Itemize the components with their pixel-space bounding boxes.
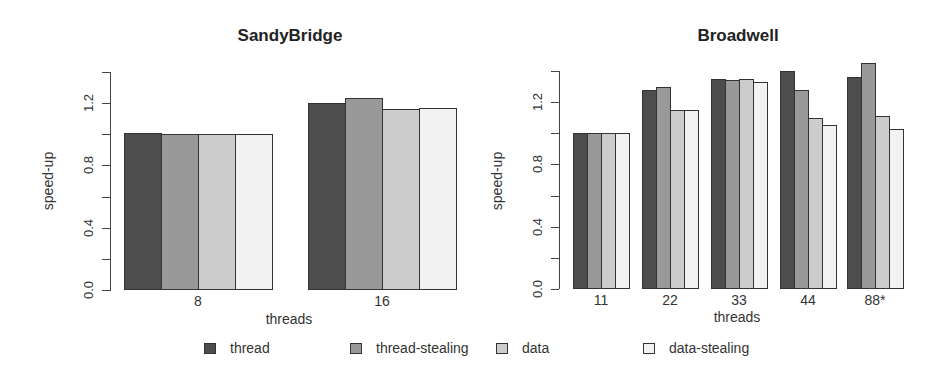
- bar-thread-stealing-11: [587, 133, 602, 289]
- y-tick: [551, 164, 559, 165]
- y-tick: [551, 196, 559, 197]
- bar-thread-22: [642, 90, 657, 289]
- chart-title: Broadwell: [697, 26, 778, 46]
- legend-label: thread: [230, 340, 270, 356]
- bar-data-11: [601, 133, 616, 289]
- bar-data-33: [739, 79, 754, 289]
- y-tick: [551, 133, 559, 134]
- y-tick: [551, 227, 559, 228]
- x-tick-label: 11: [594, 292, 609, 308]
- y-axis-label: speed-up: [489, 152, 505, 210]
- y-tick: [551, 71, 559, 72]
- legend: thread thread-stealing data data-stealin…: [0, 340, 939, 360]
- y-tick-label: 0.0: [530, 280, 545, 298]
- legend-swatch: [643, 343, 655, 354]
- bar-thread-44: [780, 71, 795, 289]
- y-tick-label: 1.2: [530, 93, 545, 111]
- x-tick-label: 44: [800, 292, 816, 308]
- x-tick-label: 88*: [864, 292, 885, 308]
- legend-swatch: [496, 343, 508, 354]
- bar-data-88star: [875, 116, 890, 289]
- y-tick-label: 0.4: [530, 218, 545, 236]
- bar-thread-11: [573, 133, 588, 289]
- legend-item-thread-stealing: thread-stealing: [350, 340, 469, 356]
- legend-item-thread: thread: [204, 340, 270, 356]
- legend-label: data: [522, 340, 549, 356]
- bar-data-stealing-44: [822, 125, 837, 289]
- y-tick: [551, 258, 559, 259]
- bar-thread-stealing-33: [725, 80, 740, 289]
- bar-data-44: [808, 118, 823, 289]
- legend-swatch: [204, 343, 216, 354]
- y-tick: [551, 289, 559, 290]
- legend-item-data-stealing: data-stealing: [643, 340, 749, 356]
- bar-data-stealing-11: [615, 133, 630, 289]
- legend-item-data: data: [496, 340, 549, 356]
- y-tick: [551, 102, 559, 103]
- y-tick-label: 0.8: [530, 155, 545, 173]
- bar-data-stealing-33: [753, 82, 768, 289]
- legend-swatch: [350, 343, 362, 354]
- x-axis-label: threads: [714, 309, 761, 325]
- bar-thread-33: [711, 79, 726, 289]
- bar-data-stealing-22: [684, 110, 699, 289]
- x-tick-label: 33: [731, 292, 747, 308]
- legend-label: data-stealing: [669, 340, 749, 356]
- bar-thread-stealing-44: [794, 90, 809, 289]
- bar-thread-88star: [847, 77, 862, 289]
- legend-label: thread-stealing: [376, 340, 469, 356]
- bar-thread-stealing-22: [656, 87, 671, 289]
- bar-data-stealing-88star: [889, 129, 904, 289]
- x-tick-label: 22: [662, 292, 678, 308]
- chart-broadwell: Broadwell speed-up 0.00.40.81.2 11223344…: [0, 0, 939, 330]
- bar-thread-stealing-88star: [861, 63, 876, 289]
- y-axis: [559, 71, 560, 289]
- bar-data-22: [670, 110, 685, 289]
